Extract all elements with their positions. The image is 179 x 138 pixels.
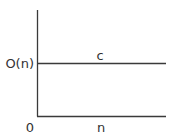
constant-time-chart: O(n) c 0 n — [0, 0, 179, 138]
y-axis-label: O(n) — [5, 56, 34, 71]
origin-label: 0 — [26, 120, 34, 135]
series-label-c: c — [96, 48, 103, 63]
x-axis-label: n — [97, 120, 105, 135]
